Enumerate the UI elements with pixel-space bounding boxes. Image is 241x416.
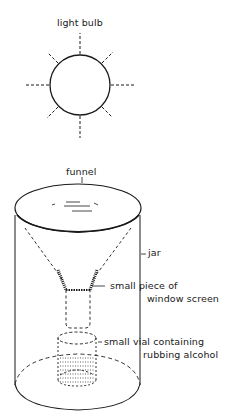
jar-label: jar [148,247,161,258]
light-rays [25,33,135,138]
jar-icon [15,215,140,410]
window-screen-label-line2: window screen [147,293,219,304]
alcohol-liquid [60,358,94,382]
vial-label-line2: rubbing alcohol [143,349,218,360]
vial-label-line1: small vial containing [104,336,204,347]
window-screen-label-line1: small piece of [110,280,177,291]
vial-icon [58,332,102,386]
funnel-label: funnel [66,166,97,177]
funnel-icon [15,184,141,328]
berlese-funnel-diagram: light bulb funnel jar small piece of win… [0,0,241,416]
light-bulb-label: light bulb [57,17,103,28]
light-bulb-icon [25,33,135,138]
